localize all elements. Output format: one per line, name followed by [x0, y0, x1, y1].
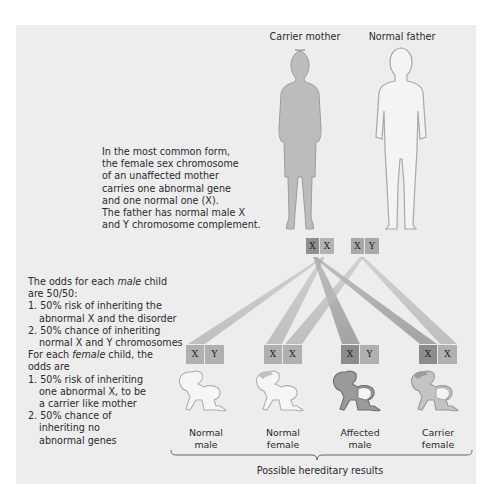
female-odds-heading: For each female child, the	[28, 349, 183, 361]
normal-father-figure	[376, 48, 426, 229]
chromosome-x: X	[438, 345, 457, 364]
chromosome-x: X	[283, 345, 302, 364]
male-odds-heading: The odds for each male child	[28, 276, 183, 288]
baby-normal-male	[179, 371, 226, 411]
normal-father-label: Normal father	[369, 31, 436, 43]
intro-line: the female sex chromosome	[102, 158, 261, 170]
father-chromosome-x: X	[351, 238, 365, 254]
female-odds-item-1: 1. 50% risk of inheriting	[28, 374, 183, 386]
male-odds-item-1-cont: abnormal X and the disorder	[28, 313, 183, 325]
father-chromosome-y: Y	[365, 238, 379, 254]
mother-chromosome-abnormal-x: X	[306, 238, 320, 254]
carrier-mother-figure	[279, 50, 321, 229]
intro-line: carries one abnormal gene	[102, 183, 261, 195]
female-odds-item-1-cont: one abnormal X, to be	[28, 386, 183, 398]
intro-paragraph: In the most common form, the female sex …	[102, 146, 261, 231]
intro-line: The father has normal male X	[102, 207, 261, 219]
female-odds-item-2: 2. 50% chance of	[28, 410, 183, 422]
child-label-normal-male: Normalmale	[171, 427, 241, 451]
baby-carrier-female	[411, 371, 458, 411]
mother-inheritance-beams	[188, 257, 437, 344]
carrier-mother-label: Carrier mother	[270, 31, 341, 43]
results-brace	[171, 450, 472, 460]
mother-chromosomes: X X	[306, 238, 334, 254]
chromosome-y: Y	[205, 345, 224, 364]
intro-line: of an unaffected mother	[102, 170, 261, 182]
child-normal-female-chromosomes: X X	[264, 345, 302, 364]
father-chromosomes: X Y	[351, 238, 379, 254]
child-affected-male-chromosomes: X Y	[341, 345, 379, 364]
mother-chromosome-normal-x: X	[320, 238, 334, 254]
female-odds-item-2-cont: inheriting no	[28, 422, 183, 434]
intro-line: and Y chromosome complement.	[102, 219, 261, 231]
chromosome-y: Y	[360, 345, 379, 364]
female-odds-heading-line2: odds are	[28, 361, 183, 373]
odds-paragraph: The odds for each male child are 50/50: …	[28, 276, 183, 447]
intro-line: and one normal one (X).	[102, 195, 261, 207]
intro-line: In the most common form,	[102, 146, 261, 158]
baby-normal-female	[256, 371, 303, 411]
results-caption: Possible hereditary results	[257, 465, 384, 477]
male-odds-item-2-cont: normal X and Y chromosomes	[28, 337, 183, 349]
baby-affected-male	[333, 371, 380, 411]
chromosome-abnormal-x: X	[419, 345, 438, 364]
child-label-carrier-female: Carrierfemale	[403, 427, 473, 451]
child-carrier-female-chromosomes: X X	[419, 345, 457, 364]
chromosome-abnormal-x: X	[341, 345, 360, 364]
male-odds-heading-line2: are 50/50:	[28, 288, 183, 300]
female-odds-item-2-cont: abnormal genes	[28, 435, 183, 447]
male-odds-item-1: 1. 50% risk of inheriting the	[28, 300, 183, 312]
child-normal-male-chromosomes: X Y	[186, 345, 224, 364]
male-odds-item-2: 2. 50% chance of inheriting	[28, 325, 183, 337]
child-label-affected-male: Affectedmale	[325, 427, 395, 451]
chromosome-x: X	[186, 345, 205, 364]
chromosome-x: X	[264, 345, 283, 364]
female-odds-item-1-cont: a carrier like mother	[28, 398, 183, 410]
child-label-normal-female: Normalfemale	[248, 427, 318, 451]
